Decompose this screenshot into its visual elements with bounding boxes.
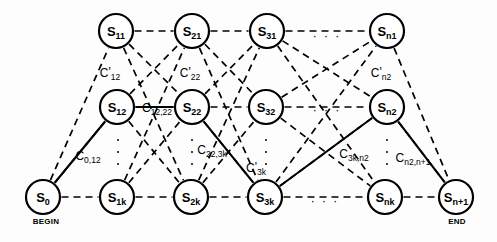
state-node-s3k[interactable] (248, 180, 282, 214)
state-node-s2k[interactable] (174, 180, 208, 214)
state-node-s31[interactable] (250, 14, 284, 48)
state-node-s1k[interactable] (100, 180, 134, 214)
nodes-layer (26, 14, 473, 214)
state-node-sn2[interactable] (370, 90, 404, 124)
trellis-graph-svg (0, 0, 497, 242)
state-node-s21[interactable] (175, 14, 209, 48)
state-node-s22[interactable] (175, 90, 209, 124)
state-node-s11[interactable] (99, 14, 133, 48)
dashed-transition-edge (205, 44, 253, 94)
dashed-transition-edge (276, 46, 376, 182)
diagram-canvas: S11S21S31Sn1S12S22S32Sn2S0S1kS2kS3kSnkSn… (0, 0, 497, 242)
state-node-sn1[interactable] (370, 14, 404, 48)
dashed-transition-edge (129, 44, 179, 94)
dashed-transition-edge (205, 44, 254, 94)
state-node-s32[interactable] (249, 90, 283, 124)
dashed-transition-edge (50, 48, 108, 180)
state-node-s12[interactable] (100, 90, 134, 124)
state-node-snk[interactable] (368, 180, 402, 214)
state-node-s0[interactable] (26, 180, 60, 214)
state-node-sn1plus[interactable] (439, 180, 473, 214)
